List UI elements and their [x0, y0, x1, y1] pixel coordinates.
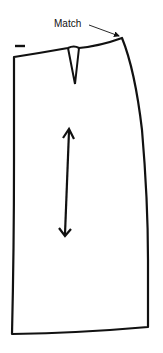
match-pointer-arrow: [89, 25, 119, 36]
match-label: Match: [54, 18, 81, 29]
pattern-outline: [12, 38, 148, 334]
waist-dart: [68, 48, 79, 84]
grainline-arrow: [59, 129, 74, 236]
pattern-diagram: Match: [0, 0, 163, 353]
